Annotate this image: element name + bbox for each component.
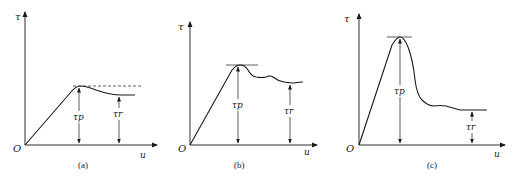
peak-stress-label: τp — [73, 112, 84, 122]
peak-stress-label: τp — [232, 100, 243, 110]
shear-stress-displacement-figure: τ O u τp τr (a) τ O u τp τr (b) τ O u — [0, 0, 512, 183]
panel-caption: (a) — [78, 160, 88, 170]
residual-stress-label: τr — [466, 122, 476, 132]
residual-stress-label: τr — [113, 109, 123, 119]
y-axis-label: τ — [178, 21, 184, 32]
panel-a: τ O u τp τr (a) — [13, 11, 157, 170]
y-axis-label: τ — [15, 11, 21, 22]
panel-c: τ O u τp τr (c) — [344, 13, 505, 170]
origin-label: O — [346, 143, 354, 154]
panel-caption: (c) — [427, 160, 437, 170]
y-axis-label: τ — [344, 13, 350, 24]
residual-stress-label: τr — [284, 106, 294, 116]
x-axis-label: u — [304, 147, 310, 157]
panel-caption: (b) — [234, 160, 245, 170]
panel-b: τ O u τp τr (b) — [178, 21, 317, 170]
peak-stress-label: τp — [394, 86, 405, 96]
origin-label: O — [13, 143, 21, 154]
x-axis-label: u — [494, 149, 500, 159]
origin-label: O — [178, 143, 186, 154]
x-axis-label: u — [140, 150, 146, 160]
